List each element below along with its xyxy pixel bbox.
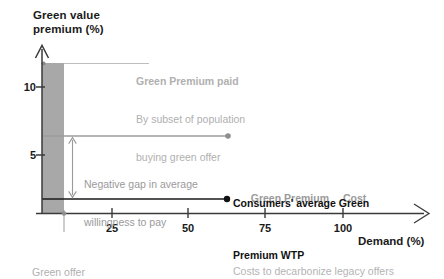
annotation-green-offer-penetration: Green offer penetration	[32, 240, 85, 279]
legend-consumers-wtp-head-line2: Premium WTP	[233, 249, 369, 262]
legend-consumers-wtp: Consumers' average Green Premium WTP Gre…	[233, 158, 369, 279]
annotation-negative-gap: Negative gap in average willingness to p…	[84, 152, 198, 242]
y-tick-label-10: 10	[14, 81, 36, 94]
annotation-negative-gap-line1: Negative gap in average	[84, 178, 198, 191]
annotation-negative-gap-line2: willingness to pay	[84, 216, 198, 229]
legend-consumers-wtp-head-line1: Consumers' average Green	[233, 197, 369, 210]
y-axis-title: Green value premium (%)	[33, 8, 104, 36]
green-premium-paid-bar	[42, 63, 64, 213]
green-offer-penetration-marker	[62, 210, 66, 232]
annotation-green-premium-paid-line2: By subset of population	[136, 113, 245, 126]
consumers-wtp-dot	[224, 196, 230, 202]
y-tick-label-5: 5	[14, 149, 36, 162]
annotation-green-premium-paid-head: Green Premium paid	[136, 75, 245, 88]
annotation-green-offer-penetration-line1: Green offer	[32, 266, 85, 279]
negative-gap-arrow	[69, 138, 77, 198]
